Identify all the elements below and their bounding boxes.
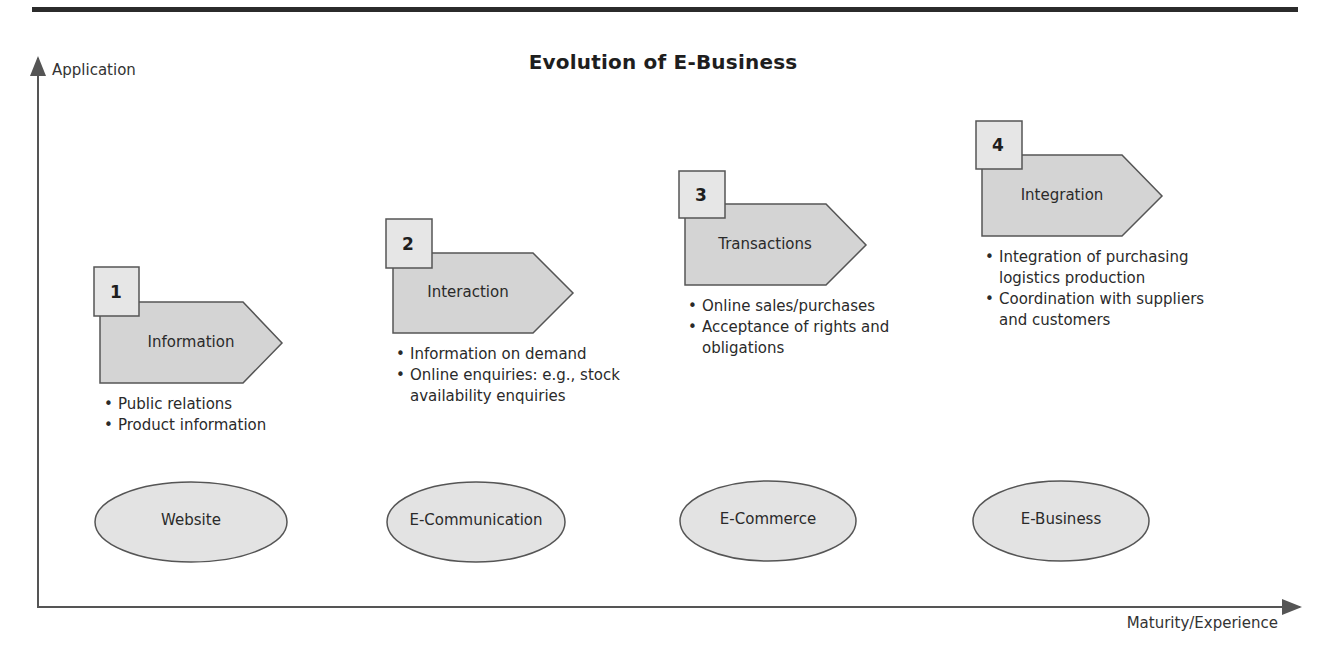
category-label-2: E-Communication <box>380 511 572 529</box>
category-label-1: Website <box>95 511 287 529</box>
category-label-3: E-Commerce <box>672 510 864 528</box>
stage-2-number: 2 <box>386 220 430 267</box>
bullet-item: Acceptance of rights and obligations <box>688 317 908 359</box>
stage-1-number: 1 <box>94 268 138 315</box>
x-axis-label: Maturity/Experience <box>1127 614 1278 632</box>
stage-4-label: Integration <box>982 186 1142 204</box>
bullet-item: Online enquiries: e.g., stock availabili… <box>396 365 636 407</box>
stage-2-label: Interaction <box>393 283 543 301</box>
bullet-item: Public relations <box>104 394 304 415</box>
stage-2-bullets: Information on demand Online enquiries: … <box>396 344 636 407</box>
bullet-item: Product information <box>104 415 304 436</box>
stage-3-bullets: Online sales/purchases Acceptance of rig… <box>688 296 908 359</box>
stage-1-bullets: Public relations Product information <box>104 394 304 436</box>
stage-3-label: Transactions <box>685 235 845 253</box>
bullet-item: Coordination with suppliers and customer… <box>985 289 1210 331</box>
stage-4-number: 4 <box>976 121 1020 168</box>
bullet-item: Online sales/purchases <box>688 296 908 317</box>
stage-4-bullets: Integration of purchasing logistics prod… <box>985 247 1210 331</box>
category-label-4: E-Business <box>965 510 1157 528</box>
stage-1-label: Information <box>100 333 282 351</box>
bullet-item: Information on demand <box>396 344 636 365</box>
stage-3-number: 3 <box>679 171 723 218</box>
y-axis-label: Application <box>52 61 136 79</box>
bullet-item: Integration of purchasing logistics prod… <box>985 247 1210 289</box>
